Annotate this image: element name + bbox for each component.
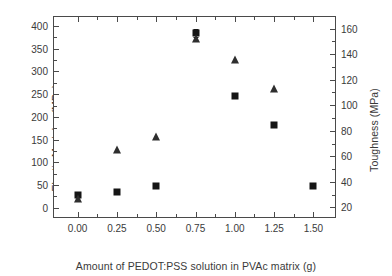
x-ticklabel: 1.25 xyxy=(264,223,283,234)
data-point-square xyxy=(113,188,120,195)
y-minor-tick-right xyxy=(332,169,335,170)
x-tick-top xyxy=(196,17,197,22)
x-ticklabel: 0.75 xyxy=(186,223,205,234)
data-point-triangle xyxy=(113,146,121,154)
y-ticklabel-left: 250 xyxy=(31,89,48,100)
x-tick-top xyxy=(117,17,118,22)
y-ticklabel-left: 300 xyxy=(31,66,48,77)
y-tick-left xyxy=(54,162,59,163)
y-minor-tick-left xyxy=(54,174,57,175)
data-point-triangle xyxy=(231,56,239,64)
x-tick xyxy=(117,212,118,217)
x-minor-tick xyxy=(137,214,138,217)
data-point-triangle xyxy=(270,84,278,92)
x-minor-tick xyxy=(254,214,255,217)
y-minor-tick-left xyxy=(54,151,57,152)
x-minor-tick xyxy=(97,214,98,217)
x-tick xyxy=(235,212,236,217)
chart-figure: Elastic Modulus (MPa) Toughness (MPa) Am… xyxy=(0,0,392,276)
x-tick-top xyxy=(235,17,236,22)
x-ticklabel: 0.00 xyxy=(68,223,87,234)
data-point-square xyxy=(271,121,278,128)
y-ticklabel-left: 350 xyxy=(31,43,48,54)
y-ticklabel-right: 120 xyxy=(341,74,358,85)
x-axis-title: Amount of PEDOT:PSS solution in PVAc mat… xyxy=(0,260,392,272)
y-tick-left xyxy=(54,49,59,50)
x-tick xyxy=(274,212,275,217)
data-point-square xyxy=(153,182,160,189)
x-tick-top xyxy=(78,17,79,22)
y-ticklabel-left: 0 xyxy=(42,202,48,213)
x-ticklabel: 0.50 xyxy=(146,223,165,234)
y-tick-left xyxy=(54,117,59,118)
y-ticklabel-right: 140 xyxy=(341,49,358,60)
x-tick-top xyxy=(313,17,314,22)
y-minor-tick-left xyxy=(54,83,57,84)
data-point-triangle xyxy=(152,133,160,141)
y-ticklabel-right: 40 xyxy=(341,176,352,187)
y-minor-tick-right xyxy=(332,118,335,119)
y-tick-left xyxy=(54,185,59,186)
y-tick-left xyxy=(54,94,59,95)
y-tick-right xyxy=(330,105,335,106)
y-minor-tick-left xyxy=(54,128,57,129)
x-tick xyxy=(156,212,157,217)
y-minor-tick-right xyxy=(332,144,335,145)
y-minor-tick-left xyxy=(54,37,57,38)
y-tick-right xyxy=(330,29,335,30)
y-tick-left xyxy=(54,208,59,209)
y-tick-left xyxy=(54,71,59,72)
y-ticklabel-left: 150 xyxy=(31,134,48,145)
y-ticklabel-left: 200 xyxy=(31,111,48,122)
x-minor-tick-top xyxy=(215,17,216,20)
x-ticklabel: 1.00 xyxy=(225,223,244,234)
y-tick-right xyxy=(330,156,335,157)
y-minor-tick-right xyxy=(332,67,335,68)
x-minor-tick-top xyxy=(176,17,177,20)
x-minor-tick-top xyxy=(254,17,255,20)
y-minor-tick-left xyxy=(54,106,57,107)
y-minor-tick-left xyxy=(54,60,57,61)
y-ticklabel-right: 160 xyxy=(341,23,358,34)
y-tick-right xyxy=(330,131,335,132)
x-minor-tick xyxy=(215,214,216,217)
data-point-triangle xyxy=(74,194,82,202)
data-point-triangle xyxy=(192,34,200,42)
data-point-square xyxy=(231,92,238,99)
plot-frame: 0501001502002503003504002040608010012014… xyxy=(53,16,336,218)
y-minor-tick-right xyxy=(332,195,335,196)
y-axis-right-title: Toughness (MPa) xyxy=(368,88,380,172)
x-minor-tick xyxy=(294,214,295,217)
y-minor-tick-right xyxy=(332,92,335,93)
x-minor-tick xyxy=(176,214,177,217)
y-ticklabel-left: 100 xyxy=(31,157,48,168)
y-ticklabel-right: 20 xyxy=(341,202,352,213)
x-ticklabel: 1.50 xyxy=(304,223,323,234)
y-tick-right xyxy=(330,182,335,183)
x-tick xyxy=(196,212,197,217)
y-tick-right xyxy=(330,207,335,208)
y-ticklabel-right: 60 xyxy=(341,151,352,162)
x-tick xyxy=(78,212,79,217)
y-ticklabel-right: 80 xyxy=(341,125,352,136)
y-ticklabel-right: 100 xyxy=(341,100,358,111)
y-tick-right xyxy=(330,80,335,81)
y-minor-tick-left xyxy=(54,196,57,197)
x-minor-tick-top xyxy=(294,17,295,20)
y-tick-right xyxy=(330,54,335,55)
x-minor-tick-top xyxy=(97,17,98,20)
y-tick-left xyxy=(54,140,59,141)
x-tick-top xyxy=(274,17,275,22)
y-tick-left xyxy=(54,26,59,27)
data-point-square xyxy=(310,183,317,190)
plot-area: 0501001502002503003504002040608010012014… xyxy=(54,17,335,217)
x-ticklabel: 0.25 xyxy=(107,223,126,234)
x-tick xyxy=(313,212,314,217)
y-ticklabel-left: 50 xyxy=(37,179,48,190)
y-ticklabel-left: 400 xyxy=(31,21,48,32)
x-tick-top xyxy=(156,17,157,22)
y-minor-tick-right xyxy=(332,41,335,42)
x-minor-tick-top xyxy=(137,17,138,20)
